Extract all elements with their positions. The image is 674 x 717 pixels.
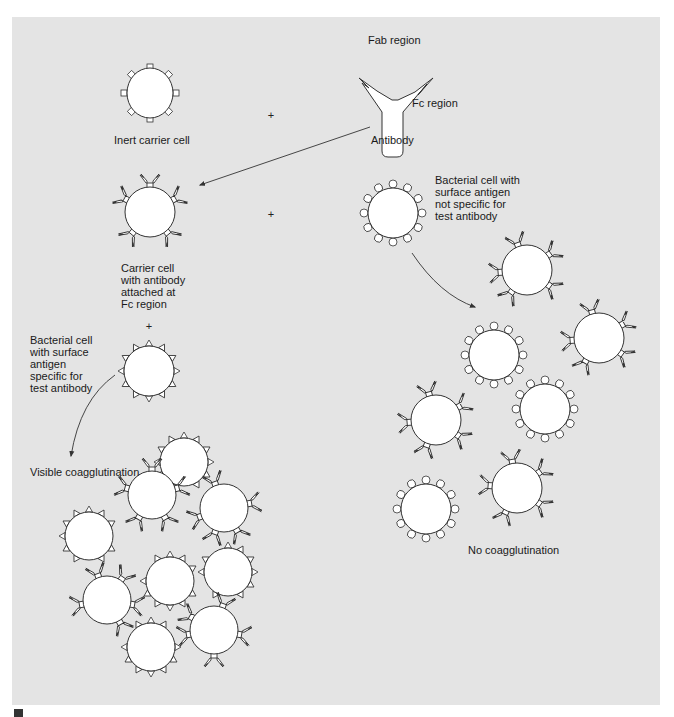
no-coagglutination-mixture [393, 231, 637, 542]
plus-sign: + [268, 208, 274, 220]
bacterial-cell-specific [118, 340, 180, 402]
antibody-label: Antibody [371, 134, 414, 146]
fc-region-label: Fc region [412, 97, 458, 109]
bacterial-cell-not-specific-label: Bacterial cell with surface antigen not … [435, 174, 520, 222]
arrow-to-no-coagglutination [412, 253, 475, 307]
carrier-cell-with-antibody-label: Carrier cell with antibody attached at F… [121, 262, 185, 310]
bacterial-cell-not-specific [360, 180, 426, 246]
coagglutination-diagram: + + + [0, 0, 674, 717]
figure-marker [14, 709, 23, 717]
inert-carrier-cell [121, 64, 179, 122]
inert-carrier-cell-label: Inert carrier cell [114, 134, 190, 146]
visible-coagglutination-label: Visible coagglutination [30, 466, 139, 478]
plus-sign: + [268, 109, 274, 121]
fab-region-label: Fab region [368, 34, 421, 46]
carrier-cell-with-antibody [112, 174, 188, 248]
arrow-antibody-to-carrier [200, 127, 370, 185]
no-coagglutination-label: No coagglutination [468, 544, 559, 556]
bacterial-cell-specific-label: Bacterial cell with surface antigen spec… [30, 334, 92, 394]
plus-sign: + [146, 320, 152, 332]
